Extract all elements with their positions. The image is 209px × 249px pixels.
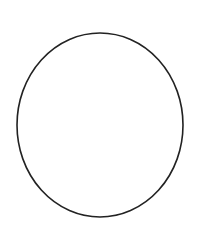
diagram-canvas [0,0,209,249]
ellipse-outline [17,33,183,217]
drawing-surface [0,0,209,249]
